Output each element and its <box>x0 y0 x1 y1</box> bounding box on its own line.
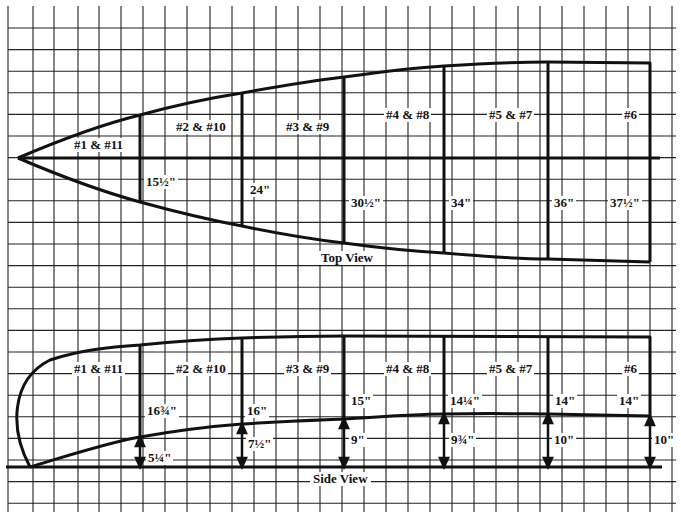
top-width-4: 34" <box>449 196 473 210</box>
side-station-label-5: #5 & #7 <box>487 362 534 376</box>
height-arrows <box>136 414 654 467</box>
top-view-outline <box>18 62 660 262</box>
top-width-6: 37½" <box>608 196 642 210</box>
bottom-height-5: 10" <box>552 433 576 447</box>
top-width-2: 24" <box>248 183 272 197</box>
top-station-label-6: #6 <box>622 108 639 122</box>
side-height-2: 16" <box>245 404 269 418</box>
side-height-5: 14" <box>553 394 577 408</box>
bottom-height-4: 9¾" <box>449 433 476 447</box>
side-station-label-4: #4 & #8 <box>384 362 431 376</box>
top-view-title: Top View <box>318 251 376 265</box>
top-view-lower-edge <box>18 158 650 262</box>
bottom-height-3: 9" <box>349 433 367 447</box>
side-height-6: 14" <box>617 394 641 408</box>
top-view-upper-edge <box>18 62 650 262</box>
side-station-label-6: #6 <box>622 362 639 376</box>
top-station-label-5: #5 & #7 <box>487 108 534 122</box>
top-width-1: 15½" <box>144 175 178 189</box>
bottom-height-2: 7½" <box>246 437 273 451</box>
side-station-label-2: #2 & #10 <box>174 362 228 376</box>
top-station-label-3: #3 & #9 <box>284 120 331 134</box>
side-height-4: 14¼" <box>448 394 482 408</box>
top-station-label-4: #4 & #8 <box>384 108 431 122</box>
side-height-1: 16¾" <box>145 404 179 418</box>
side-station-label-3: #3 & #9 <box>284 362 331 376</box>
side-station-label-1: #1 & #11 <box>72 362 125 376</box>
top-station-label-1: #1 & #11 <box>72 138 125 152</box>
side-view-title: Side View <box>310 472 371 486</box>
side-height-3: 15" <box>349 394 373 408</box>
top-width-3: 30½" <box>349 196 383 210</box>
bottom-height-1: 5¼" <box>146 451 173 465</box>
top-station-label-2: #2 & #10 <box>174 120 228 134</box>
top-width-5: 36" <box>552 196 576 210</box>
bottom-height-6: 10" <box>652 433 676 447</box>
